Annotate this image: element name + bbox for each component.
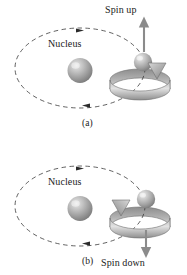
- nucleus-label: Nucleus: [48, 177, 81, 187]
- electron-sphere-icon: [134, 53, 152, 71]
- arrow-up-icon: [139, 17, 149, 53]
- orbit-arrow-bottom-icon: [82, 104, 90, 108]
- spin-down-label: Spin down: [101, 258, 145, 268]
- orbit-arrow-top-icon: [76, 167, 84, 171]
- nucleus-label: Nucleus: [48, 39, 81, 49]
- electron-sphere-icon: [137, 190, 155, 208]
- panel-b-graphics: [0, 138, 187, 275]
- panel-spin-down: Nucleus Spin down (b): [0, 138, 187, 275]
- panel-spin-up: Nucleus Spin up (a): [0, 0, 187, 137]
- panel-a-caption: (a): [82, 119, 93, 129]
- panel-b-caption: (b): [82, 257, 93, 267]
- panel-a-graphics: [0, 0, 187, 137]
- orbit-arrow-bottom-icon: [82, 242, 90, 246]
- nucleus-sphere-icon: [68, 196, 93, 221]
- spin-up-label: Spin up: [105, 5, 137, 15]
- nucleus-sphere-icon: [68, 58, 93, 83]
- orbit-arrow-top-icon: [76, 29, 84, 33]
- spin-diagram-figure: Nucleus Spin up (a): [0, 0, 187, 275]
